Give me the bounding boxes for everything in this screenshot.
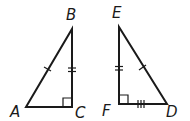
right-angle-mark-c (63, 98, 72, 107)
triangle-efd: E F D (102, 4, 178, 121)
congruent-triangles-diagram: B A C E F D (0, 0, 190, 121)
triangle-abc: B A C (9, 6, 86, 121)
vertex-label-e: E (112, 4, 122, 22)
right-angle-mark-f (119, 95, 128, 104)
vertex-label-f: F (102, 102, 111, 120)
triangle-abc-outline (26, 29, 72, 107)
vertex-label-a: A (9, 103, 20, 121)
vertex-label-c: C (75, 104, 86, 121)
vertex-label-d: D (166, 103, 178, 121)
triangle-efd-outline (119, 27, 167, 104)
vertex-label-b: B (66, 6, 76, 24)
